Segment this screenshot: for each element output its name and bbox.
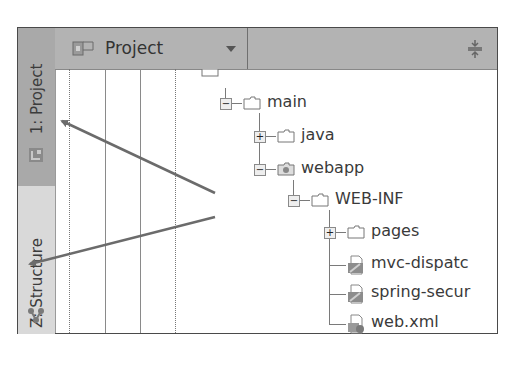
arrow-to-project-tab (62, 121, 215, 193)
annotation-arrows (0, 0, 518, 366)
arrow-to-structure-tab (30, 217, 215, 264)
